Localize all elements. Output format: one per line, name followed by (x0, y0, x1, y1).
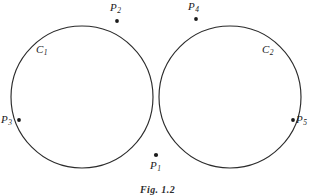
point-label-p3-sub: 3 (8, 118, 12, 127)
curve-label-c2-base: C (262, 43, 269, 55)
point-dot-p4 (194, 17, 198, 21)
point-label-p1-sub: 1 (157, 164, 161, 173)
point-label-p4-sub: 4 (195, 5, 199, 14)
point-dot-p2 (115, 19, 119, 23)
figure-container: C1 C2 P1 P2 P3 P4 P5 Fig. 1.2 (0, 0, 315, 195)
point-label-p2-sub: 2 (117, 6, 121, 15)
point-label-p5-base: P (296, 113, 303, 125)
curve-label-c1: C1 (36, 44, 47, 55)
curve-label-c1-base: C (36, 43, 43, 55)
point-label-p1-base: P (150, 159, 157, 171)
point-label-p4-base: P (188, 0, 195, 12)
curve-label-c2-sub: 2 (270, 48, 274, 57)
figure-caption: Fig. 1.2 (0, 184, 315, 195)
point-label-p1: P1 (150, 160, 161, 171)
point-label-p3: P3 (1, 114, 12, 125)
point-dot-p5 (291, 118, 295, 122)
point-label-p3-base: P (1, 113, 8, 125)
point-label-p2: P2 (110, 2, 121, 13)
circle-c2 (159, 26, 301, 168)
curve-label-c1-sub: 1 (44, 48, 48, 57)
point-dot-p1 (154, 153, 158, 157)
curve-label-c2: C2 (262, 44, 273, 55)
point-label-p4: P4 (188, 1, 199, 12)
point-dot-p3 (17, 118, 21, 122)
point-label-p2-base: P (110, 1, 117, 13)
point-label-p5: P5 (296, 114, 307, 125)
point-label-p5-sub: 5 (303, 118, 307, 127)
circle-c1 (11, 26, 153, 168)
